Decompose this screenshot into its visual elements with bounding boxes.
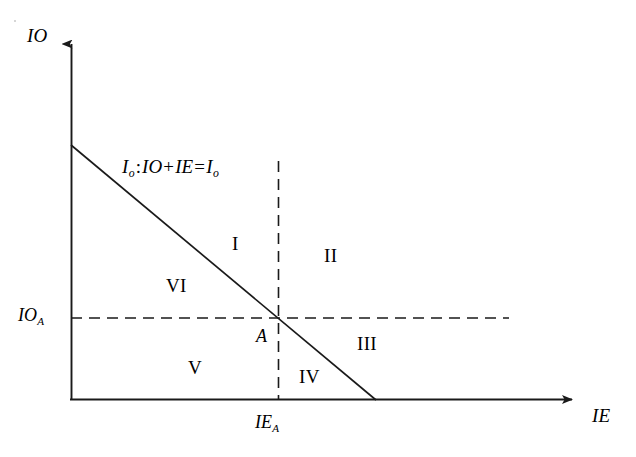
equation-equals-sign: = [194,156,205,177]
y-tick-main: IO [18,305,37,325]
x-axis-label: IE [592,406,610,425]
region-label-4: IV [299,367,320,386]
region-label-6: VI [166,276,187,295]
equation-result-subscript: o [213,167,219,180]
x-tick-label-ie-a: IEA [255,413,279,431]
equation-colon: : [136,156,141,177]
io-ie-region-diagram: IO IE IOA IEA Io:IO+IE=Io A I II III IV … [0,0,636,457]
point-a-label: A [256,327,267,345]
region-label-2: II [324,246,337,265]
equation-prefix: I [122,156,128,177]
equation-prefix-subscript: o [129,167,135,180]
y-tick-sub: A [37,315,44,327]
region-label-1: I [232,234,239,253]
region-label-3: III [357,334,377,353]
region-label-5: V [188,358,202,377]
equation-term-io: IO [142,156,162,177]
x-tick-sub: A [272,422,279,434]
equation-term-ie: IE [175,156,193,177]
y-axis-label: IO [27,26,47,45]
x-tick-main: IE [255,412,272,432]
diagram-canvas [0,0,636,457]
equation-plus-sign: + [163,156,174,177]
constraint-line [71,145,376,400]
equation-result: I [206,156,212,177]
y-tick-label-io-a: IOA [18,306,44,324]
constraint-line-equation-label: Io:IO+IE=Io [122,157,219,176]
